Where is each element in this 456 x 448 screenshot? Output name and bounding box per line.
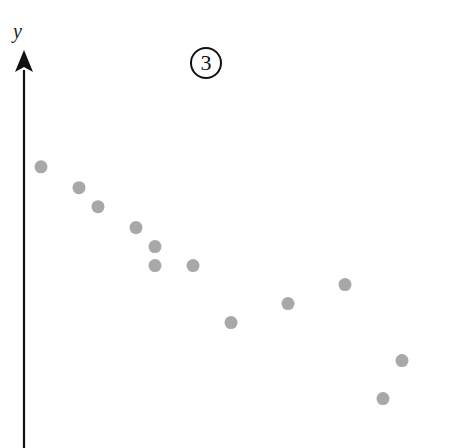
data-points [35, 160, 409, 405]
y-axis-label: y [13, 20, 22, 43]
data-point [396, 354, 409, 367]
figure-number-badge: 3 [190, 47, 222, 79]
data-point [149, 240, 162, 253]
data-point [149, 259, 162, 272]
data-point [225, 316, 238, 329]
scatter-plot [0, 0, 456, 448]
data-point [130, 221, 143, 234]
data-point [35, 160, 48, 173]
data-point [282, 297, 295, 310]
data-point [92, 200, 105, 213]
data-point [377, 392, 390, 405]
data-point [339, 278, 352, 291]
data-point [73, 181, 86, 194]
y-axis-arrow-icon [15, 50, 33, 72]
data-point [187, 259, 200, 272]
